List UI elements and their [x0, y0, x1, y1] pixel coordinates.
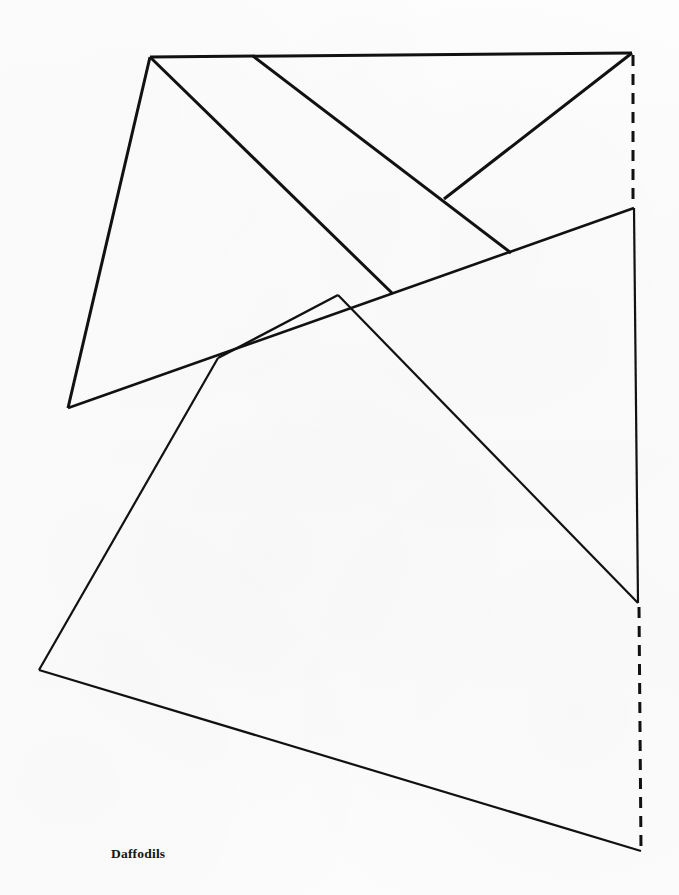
pattern-line-lower-fold-line: [639, 607, 641, 849]
pattern-line-bottom-edge: [39, 670, 641, 851]
solid-lines-group: [39, 53, 641, 851]
pattern-line-pinch-chord: [218, 295, 338, 358]
pattern-line-right-vertical: [634, 208, 638, 603]
label-pattern-name: Daffodils: [111, 846, 165, 862]
pattern-line-upper-left-edge: [68, 57, 150, 408]
pattern-line-upper-left-diagonal: [150, 57, 392, 293]
pattern-line-top-branch-diagonal: [253, 56, 511, 253]
pattern-line-left-lower-edge: [39, 358, 218, 670]
pattern-line-center-long-diagonal: [338, 295, 638, 603]
pattern-page: Daffodils: [0, 0, 679, 895]
pattern-line-top-right-diagonal: [444, 53, 632, 199]
pattern-line-top-edge: [150, 53, 632, 57]
pattern-drawing: [0, 0, 679, 895]
